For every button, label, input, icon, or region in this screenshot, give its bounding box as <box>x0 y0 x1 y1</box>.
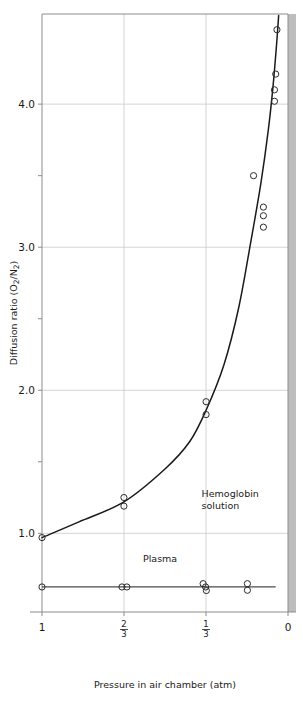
hemoglobin-data-point <box>273 71 279 77</box>
fraction-denominator: 3 <box>203 629 208 639</box>
hemoglobin-data-point <box>250 173 256 179</box>
y-tick-label: 1.0 <box>18 527 35 539</box>
plasma-data-point <box>244 581 250 587</box>
hemoglobin-data-point <box>274 27 280 33</box>
fraction-denominator: 3 <box>121 629 126 639</box>
y-tick-label: 2.0 <box>18 384 35 396</box>
fraction-numerator: 1 <box>203 619 208 629</box>
series-label-plasma: Plasma <box>143 553 177 564</box>
y-axis-title-mid: /N <box>8 269 19 279</box>
hemoglobin-data-point <box>203 411 209 417</box>
plasma-data-point <box>39 584 45 590</box>
hemoglobin-label-line1: Hemoglobin <box>202 488 259 499</box>
hemoglobin-data-point <box>121 494 127 500</box>
fraction-numerator: 2 <box>121 619 126 629</box>
plasma-data-point <box>244 587 250 593</box>
hemoglobin-data-point <box>260 213 266 219</box>
hemoglobin-data-point <box>260 204 266 210</box>
y-axis-title-prefix: Diffusion ratio (O <box>8 284 19 365</box>
hemoglobin-label-line2: solution <box>202 500 240 511</box>
y-tick-label: 4.0 <box>18 98 35 110</box>
hemoglobin-data-point <box>203 399 209 405</box>
hemoglobin-data-point <box>271 98 277 104</box>
plasma-data-point <box>124 584 130 590</box>
chart-background <box>0 0 303 707</box>
x-tick-label: 1 <box>39 621 46 633</box>
hemoglobin-data-point <box>39 535 45 541</box>
x-axis-title: Pressure in air chamber (atm) <box>94 679 236 690</box>
plot-shadow-band <box>288 14 296 612</box>
plasma-data-point <box>203 587 209 593</box>
hemoglobin-data-point <box>260 224 266 230</box>
diffusion-ratio-chart: 1.02.03.04.0 123130 Hemoglobin solution … <box>0 0 303 707</box>
figure-container: 1.02.03.04.0 123130 Hemoglobin solution … <box>0 0 303 707</box>
hemoglobin-data-point <box>121 503 127 509</box>
hemoglobin-data-point <box>271 87 277 93</box>
y-axis-title-suffix: ) <box>8 261 19 265</box>
y-tick-label: 3.0 <box>18 241 35 253</box>
x-tick-label: 0 <box>285 621 292 633</box>
